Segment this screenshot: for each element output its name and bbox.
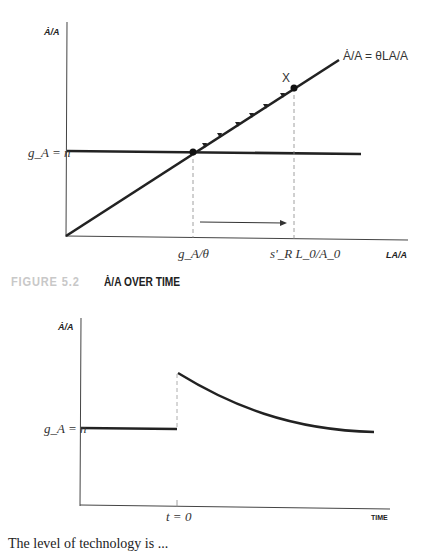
shift-arrow bbox=[200, 222, 284, 223]
intersection-point bbox=[190, 149, 197, 156]
top-horizontal-line bbox=[67, 151, 361, 154]
point-x-label: X bbox=[282, 72, 290, 84]
body-text: The level of technology is ... bbox=[8, 537, 168, 551]
top-diagonal-line bbox=[66, 60, 339, 236]
shift-arrowhead bbox=[280, 220, 287, 226]
top-x-axis bbox=[66, 236, 408, 240]
t0-label: t = 0 bbox=[166, 510, 191, 523]
x-tick-ga-theta: g_A/θ bbox=[178, 247, 209, 260]
x-tick-sr-l0-a0: s'_R L_0/A_0 bbox=[270, 247, 340, 260]
figure-number: FIGURE 5.2 bbox=[11, 275, 80, 288]
bottom-level-line bbox=[81, 428, 177, 429]
bottom-y-axis-label: Ȧ/A bbox=[58, 323, 74, 332]
bottom-decay-curve bbox=[178, 373, 374, 432]
point-x bbox=[291, 85, 298, 92]
top-y-axis bbox=[66, 22, 67, 237]
figure-title: Ȧ/A OVER TIME bbox=[104, 276, 180, 288]
line-equation-label: Ȧ/A = θLA/A bbox=[343, 50, 408, 62]
bottom-x-axis-label: TIME bbox=[371, 514, 388, 521]
bottom-y-axis bbox=[80, 318, 81, 506]
bottom-level-label: g_A = n bbox=[44, 422, 86, 435]
bottom-x-axis bbox=[80, 505, 390, 509]
top-x-axis-label: LA/A bbox=[386, 251, 407, 260]
top-y-axis-label: Ȧ/A bbox=[44, 28, 60, 37]
top-horizontal-label: g_A = n bbox=[28, 146, 70, 159]
